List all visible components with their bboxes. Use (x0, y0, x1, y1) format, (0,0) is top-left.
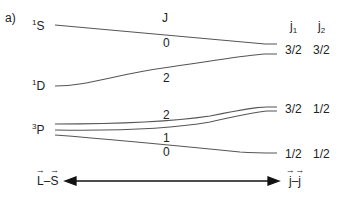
J-value-1S: 0 (163, 37, 170, 49)
state-1S: 1S (32, 20, 44, 32)
state-sup: 1 (32, 78, 36, 87)
separator: – (44, 174, 51, 188)
J-header: J (162, 12, 168, 24)
double-arrow (65, 177, 279, 185)
J-value-3P2: 2 (163, 109, 170, 121)
S-vector: S (50, 175, 58, 187)
L-vector: L (37, 175, 44, 187)
state-letter: P (36, 123, 44, 137)
j-vector: j (289, 175, 292, 187)
j1-header: j1 (290, 20, 297, 32)
level-3-j2: 1/2 (313, 148, 330, 160)
state-letter: S (36, 19, 44, 33)
jj-coupling-label: j–j (289, 175, 301, 187)
J-value-3P0: 0 (163, 146, 170, 158)
state-letter: D (36, 79, 45, 93)
LS-coupling-label: L–S (37, 175, 58, 187)
j2-sub: 2 (321, 26, 325, 35)
level-1-j1: 3/2 (285, 44, 302, 56)
j2-header: j2 (318, 20, 325, 32)
state-1D: 1D (32, 80, 45, 92)
level-1-j2: 3/2 (313, 44, 330, 56)
j-vector: j (298, 175, 301, 187)
level-2-j1: 3/2 (285, 103, 302, 115)
panel-label: a) (5, 12, 16, 24)
state-sup: 3 (32, 122, 36, 131)
J-value-1D: 2 (163, 72, 170, 84)
level-3-j1: 1/2 (285, 148, 302, 160)
state-3P: 3P (32, 124, 44, 136)
J-value-3P1: 1 (163, 132, 170, 144)
state-sup: 1 (32, 18, 36, 27)
level-2-j2: 1/2 (313, 103, 330, 115)
j1-sub: 1 (293, 26, 297, 35)
